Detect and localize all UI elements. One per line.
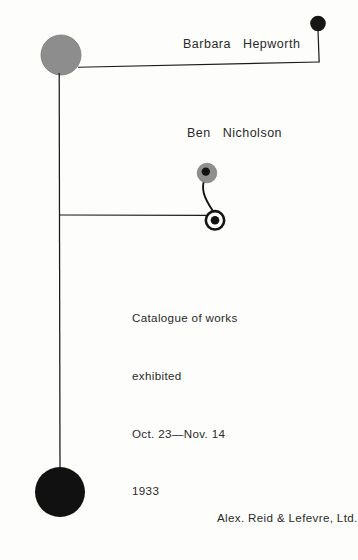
main-vertical-wire-line — [59, 73, 60, 470]
artist-name-hepworth: Barbara Hepworth — [183, 37, 300, 51]
catalogue-line-2: exhibited — [132, 366, 238, 385]
catalogue-line-3: Oct. 23—Nov. 14 — [132, 424, 238, 443]
artist-name-nicholson: Ben Nicholson — [187, 126, 282, 140]
gallery-address-block: Alex. Reid & Lefevre, Ltd. 1a King Stree… — [217, 470, 358, 560]
black-disc-bottom-left-shape — [35, 467, 85, 517]
top-right-drop-wire-line — [318, 30, 319, 63]
black-dot-small-shape — [202, 167, 210, 175]
gallery-name: Alex. Reid & Lefevre, Ltd. — [217, 508, 358, 527]
black-dot-top-right-shape — [310, 16, 326, 32]
catalogue-cover-page: Barbara Hepworth Ben Nicholson Catalogue… — [0, 0, 358, 560]
target-center-dot-shape — [211, 216, 220, 225]
catalogue-line-1: Catalogue of works — [132, 308, 238, 327]
upper-horizontal-beam-line — [78, 62, 319, 67]
